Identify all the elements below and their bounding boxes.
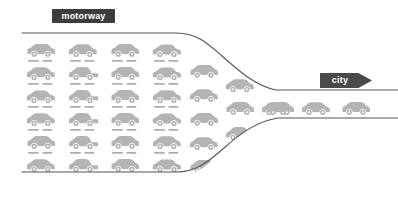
car-ground-shadow <box>154 60 165 61</box>
city-label-text: city <box>332 76 348 85</box>
car-body <box>111 67 139 80</box>
car-icon <box>69 159 98 172</box>
car-body <box>27 136 55 149</box>
car-icon <box>153 68 181 85</box>
car-icon <box>190 113 218 126</box>
car-body <box>190 137 218 150</box>
car-icon <box>27 136 55 154</box>
car-ground-shadow <box>127 152 137 153</box>
car-icon <box>69 136 98 153</box>
car-icon <box>27 91 55 108</box>
car-body <box>111 159 139 172</box>
car-body <box>153 45 181 58</box>
car-body <box>69 44 97 57</box>
car-icon <box>27 113 55 130</box>
car-icon <box>190 160 218 173</box>
cars-layer <box>27 44 370 173</box>
car-ground-shadow <box>112 83 123 84</box>
car-body <box>226 127 255 140</box>
car-body <box>153 160 181 173</box>
traffic-scene-svg <box>0 0 398 199</box>
car-body <box>111 90 139 103</box>
car-ground-shadow <box>169 129 179 130</box>
car-ground-shadow <box>85 106 95 107</box>
car-ground-shadow <box>70 106 81 107</box>
car-body <box>153 136 181 149</box>
car-icon <box>226 127 255 140</box>
car-icon <box>69 90 98 108</box>
car-icon <box>69 67 98 85</box>
car-icon <box>302 102 330 115</box>
car-ground-shadow <box>43 152 53 153</box>
car-body <box>153 90 181 103</box>
car-ground-shadow <box>70 60 81 61</box>
car-ground-shadow <box>154 152 165 153</box>
car-icon <box>153 136 181 153</box>
car-ground-shadow <box>28 60 39 61</box>
car-body <box>153 114 181 127</box>
car-body <box>190 65 218 78</box>
car-ground-shadow <box>28 152 39 153</box>
car-icon <box>153 45 181 62</box>
car-icon <box>153 160 181 173</box>
car-ground-shadow <box>70 129 81 130</box>
car-body <box>190 160 218 173</box>
car-ground-shadow <box>43 129 53 130</box>
car-icon <box>111 90 139 108</box>
car-ground-shadow <box>85 152 95 153</box>
car-body <box>111 136 139 149</box>
car-ground-shadow <box>28 106 39 107</box>
car-body <box>69 67 98 80</box>
car-body <box>111 44 139 57</box>
car-ground-shadow <box>28 129 39 130</box>
car-icon <box>27 44 55 62</box>
motorway-label: motorway <box>52 9 115 23</box>
car-icon <box>111 159 139 172</box>
car-icon <box>153 90 181 107</box>
car-ground-shadow <box>154 106 165 107</box>
car-icon <box>27 159 55 172</box>
car-ground-shadow <box>169 106 179 107</box>
car-body <box>302 102 330 115</box>
car-icon <box>69 113 98 130</box>
car-ground-shadow <box>127 106 137 107</box>
car-body <box>69 90 98 103</box>
car-ground-shadow <box>127 60 137 61</box>
car-icon <box>226 102 254 115</box>
car-icon <box>226 79 254 92</box>
car-body <box>190 89 218 102</box>
car-ground-shadow <box>112 106 123 107</box>
car-body <box>111 113 139 126</box>
car-ground-shadow <box>28 83 39 84</box>
car-body <box>226 79 254 92</box>
car-icon <box>190 65 218 78</box>
car-ground-shadow <box>43 106 53 107</box>
car-body <box>27 67 55 80</box>
car-icon <box>111 136 139 154</box>
car-body <box>342 102 370 115</box>
car-icon <box>190 137 218 150</box>
car-ground-shadow <box>85 129 95 130</box>
car-ground-shadow <box>127 129 137 130</box>
motorway-label-text: motorway <box>61 12 105 21</box>
car-ground-shadow <box>112 152 123 153</box>
car-icon <box>342 102 370 115</box>
car-body <box>190 113 218 126</box>
car-ground-shadow <box>85 83 95 84</box>
car-ground-shadow <box>70 152 81 153</box>
car-icon <box>153 114 181 131</box>
car-body <box>27 44 55 57</box>
car-ground-shadow <box>127 83 137 84</box>
car-body <box>69 113 98 126</box>
car-ground-shadow <box>70 83 81 84</box>
car-body <box>27 91 55 104</box>
car-icon <box>69 44 97 61</box>
car-body <box>27 159 55 172</box>
car-icon <box>27 67 55 84</box>
car-ground-shadow <box>112 60 123 61</box>
car-body <box>226 102 254 115</box>
car-icon <box>190 89 218 102</box>
car-ground-shadow <box>43 60 53 61</box>
car-body <box>153 68 181 81</box>
car-icon <box>111 67 139 85</box>
